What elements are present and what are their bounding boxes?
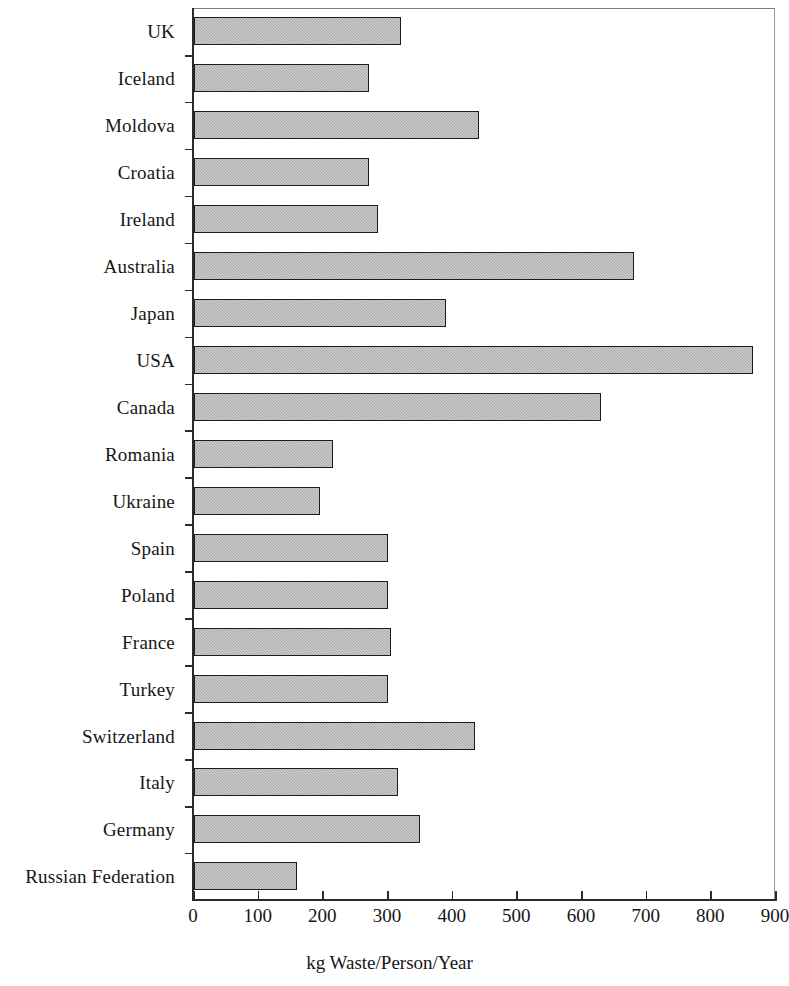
x-axis-tick-label: 700	[631, 906, 660, 925]
x-axis-tick-label: 200	[308, 906, 337, 925]
x-axis-tick-label: 0	[188, 906, 198, 925]
x-axis-tick	[775, 891, 777, 901]
x-axis-tick	[258, 891, 260, 901]
x-axis-tick	[322, 891, 324, 901]
x-axis-tick	[646, 891, 648, 901]
x-axis-tick	[387, 891, 389, 901]
x-axis-tick	[452, 891, 454, 901]
x-axis-tick-label: 600	[567, 906, 596, 925]
x-axis-tick	[516, 891, 518, 901]
x-axis-tick-label: 100	[243, 906, 272, 925]
x-axis-tick	[710, 891, 712, 901]
x-axis-tick	[581, 891, 583, 901]
x-axis-tick-label: 500	[502, 906, 531, 925]
x-axis-tick	[193, 891, 195, 901]
x-axis-tick-label: 800	[696, 906, 725, 925]
x-axis-title: kg Waste/Person/Year	[0, 952, 779, 974]
x-axis-tick-label: 900	[761, 906, 789, 925]
x-axis-tick-label: 300	[373, 906, 402, 925]
x-axis-tick-label: 400	[437, 906, 466, 925]
